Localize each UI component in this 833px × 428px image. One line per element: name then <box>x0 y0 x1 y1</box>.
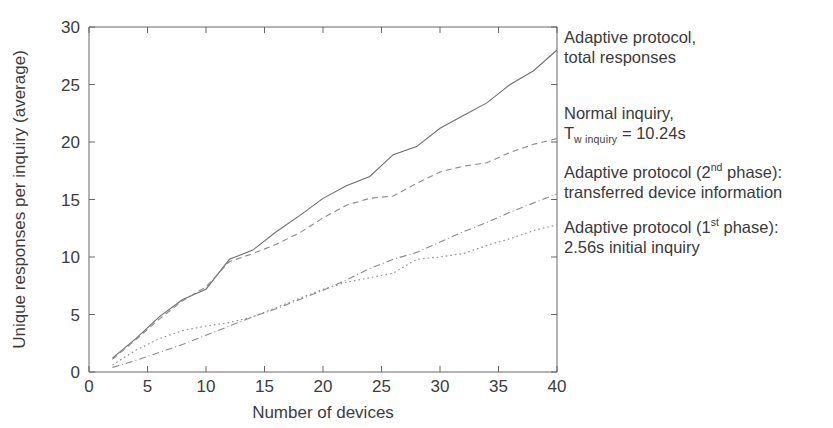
annotation-line-formula: Tw inquiry = 10.24s <box>564 123 686 149</box>
y-tick-label: 5 <box>71 306 80 325</box>
y-tick-label: 10 <box>61 248 80 267</box>
y-tick-label: 20 <box>61 133 80 152</box>
plot-box <box>89 27 557 372</box>
series-line-3 <box>112 194 557 368</box>
annotation-line: Adaptive protocol, <box>564 27 696 47</box>
annotation-text: phase): <box>722 163 782 181</box>
annotation-line: Adaptive protocol (1st phase): <box>564 212 779 237</box>
x-tick-label: 35 <box>489 377 508 396</box>
axis-titles: Number of devicesUnique responses per in… <box>10 50 394 422</box>
y-tick-label: 15 <box>61 191 80 210</box>
y-tick-label: 25 <box>61 76 80 95</box>
x-axis-title: Number of devices <box>252 403 394 422</box>
formula-value: = 10.24s <box>617 124 685 142</box>
annotation-adaptive-total: Adaptive protocol, total responses <box>564 27 696 67</box>
annotation-line: total responses <box>564 47 696 67</box>
ordinal-suffix: nd <box>711 161 723 173</box>
series-line-1 <box>112 50 557 358</box>
x-tick-label: 25 <box>372 377 391 396</box>
ordinal-suffix: st <box>711 216 719 228</box>
data-series <box>112 50 557 367</box>
x-tick-label: 0 <box>84 377 93 396</box>
annotation-adaptive-2nd-phase: Adaptive protocol (2nd phase): transferr… <box>564 157 782 202</box>
annotation-line: Normal inquiry, <box>564 103 686 123</box>
annotation-text: phase): <box>719 218 779 236</box>
x-tick-label: 20 <box>314 377 333 396</box>
x-tick-label: 5 <box>143 377 152 396</box>
series-line-2 <box>112 139 557 360</box>
formula-subscript: w inquiry <box>574 133 617 145</box>
formula-symbol: T <box>564 124 574 142</box>
x-tick-label: 30 <box>431 377 450 396</box>
x-tick-label: 10 <box>197 377 216 396</box>
series-line-4 <box>112 225 557 365</box>
annotation-text: Adaptive protocol (1 <box>564 218 711 236</box>
annotation-line: Adaptive protocol (2nd phase): <box>564 157 782 182</box>
axes <box>89 27 557 372</box>
annotation-line: transferred device information <box>564 182 782 202</box>
annotation-adaptive-1st-phase: Adaptive protocol (1st phase): 2.56s ini… <box>564 212 779 257</box>
chart-figure: 0510152025303540051015202530 Number of d… <box>0 0 833 428</box>
annotation-text: Adaptive protocol (2 <box>564 163 711 181</box>
annotation-normal-inquiry: Normal inquiry, Tw inquiry = 10.24s <box>564 103 686 149</box>
x-tick-label: 15 <box>255 377 274 396</box>
annotation-line: 2.56s initial inquiry <box>564 237 779 257</box>
x-tick-label: 40 <box>548 377 567 396</box>
y-axis-title: Unique responses per inquiry (average) <box>10 50 29 349</box>
y-tick-label: 0 <box>71 363 80 382</box>
y-tick-label: 30 <box>61 18 80 37</box>
